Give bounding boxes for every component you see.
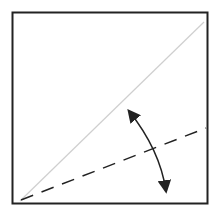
fold-diagram — [0, 0, 220, 213]
paper-square — [13, 13, 208, 204]
